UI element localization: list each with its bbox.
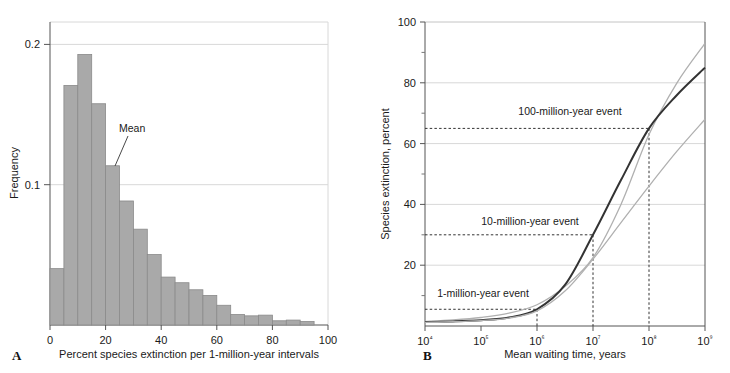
xtick-label-4: 10⁸ xyxy=(641,334,656,347)
mean-annotation-label: Mean xyxy=(119,122,145,134)
histogram-bar xyxy=(106,166,120,325)
ytick-label-60: 60 xyxy=(404,138,416,150)
histogram-bars xyxy=(50,54,314,325)
annotation-1myr: 1-million-year event xyxy=(437,287,529,299)
histogram-bar xyxy=(259,315,273,325)
histogram-bar xyxy=(300,321,314,325)
annotation-10myr: 10-million-year event xyxy=(481,215,579,227)
curve-upper-bound xyxy=(425,43,705,321)
panel-b-xlabel: Mean waiting time, years xyxy=(504,348,626,360)
xtick-label-3: 10⁷ xyxy=(586,334,601,347)
histogram-bar xyxy=(189,290,203,325)
histogram-bar xyxy=(50,269,64,325)
ytick-label-80: 80 xyxy=(404,77,416,89)
panel-a-yticks: 0.2 0.1 xyxy=(25,38,50,190)
ytick-label-100: 100 xyxy=(398,16,416,28)
panel-a-ylabel: Frequency xyxy=(8,147,20,199)
xtick-label-1: 10⁵ xyxy=(473,334,488,347)
xtick-label-0: 10⁴ xyxy=(417,334,432,347)
panel-b-letter: B xyxy=(423,348,432,363)
caption-fragment xyxy=(0,365,730,373)
ytick-label-0.1: 0.1 xyxy=(25,179,40,191)
panel-a-svg: 0.2 0.1 020406080100 Frequency Percent s… xyxy=(0,0,365,373)
xtick-label-2: 10⁶ xyxy=(529,334,544,347)
ytick-label-0.2: 0.2 xyxy=(25,38,40,50)
xtick-label-40: 40 xyxy=(155,334,167,346)
panel-b-gridlines xyxy=(425,22,705,265)
mean-annotation-leader xyxy=(115,136,128,166)
annotation-100myr: 100-million-year event xyxy=(518,105,621,117)
xtick-label-0: 0 xyxy=(47,334,53,346)
panel-b-curves xyxy=(425,43,705,322)
xtick-label-20: 20 xyxy=(99,334,111,346)
xtick-label-100: 100 xyxy=(319,334,337,346)
panel-b-svg: 20406080100 10⁴10⁵10⁶10⁷10⁸10⁹ 100-milli… xyxy=(365,0,730,373)
histogram-bar xyxy=(286,320,300,325)
panel-a-letter: A xyxy=(12,348,22,363)
histogram-bar xyxy=(231,314,245,325)
panel-b-yticks: 20406080100 xyxy=(398,16,425,296)
panel-b-xticks: 10⁴10⁵10⁶10⁷10⁸10⁹ xyxy=(417,326,712,347)
histogram-bar xyxy=(120,201,134,325)
histogram-bar xyxy=(147,255,161,325)
histogram-bar xyxy=(64,85,78,325)
histogram-bar xyxy=(203,295,217,325)
panel-b-ylabel: Species extinction, percent xyxy=(379,108,391,239)
panel-a-histogram: 0.2 0.1 020406080100 Frequency Percent s… xyxy=(0,0,365,373)
panel-b-frame xyxy=(425,22,705,326)
ytick-label-40: 40 xyxy=(404,198,416,210)
xtick-label-60: 60 xyxy=(211,334,223,346)
histogram-bar xyxy=(245,316,259,325)
histogram-bar xyxy=(217,305,231,325)
histogram-bar xyxy=(161,277,175,325)
xtick-label-5: 10⁹ xyxy=(697,334,712,347)
histogram-bar xyxy=(133,229,147,325)
ytick-label-20: 20 xyxy=(404,259,416,271)
panel-a-xticks: 020406080100 xyxy=(47,325,337,346)
histogram-bar xyxy=(175,283,189,325)
histogram-bar xyxy=(272,321,286,325)
histogram-bar xyxy=(78,54,92,325)
xtick-label-80: 80 xyxy=(266,334,278,346)
panel-a-xlabel: Percent species extinction per 1-million… xyxy=(59,348,319,360)
histogram-bar xyxy=(92,104,106,325)
panel-b-line-chart: 20406080100 10⁴10⁵10⁶10⁷10⁸10⁹ 100-milli… xyxy=(365,0,730,373)
